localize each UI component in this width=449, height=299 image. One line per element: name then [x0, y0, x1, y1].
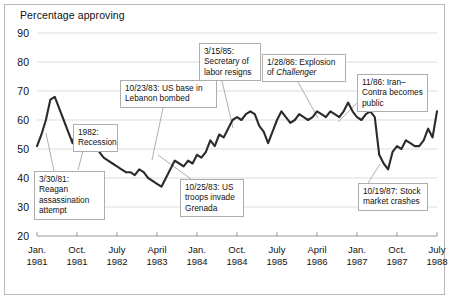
- annotation-stock-market-crash: 10/19/87: Stockmarket crashes: [358, 183, 428, 211]
- annotation-line: market crashes: [363, 196, 423, 206]
- x-tick-label-month: July: [269, 244, 286, 255]
- annotation-recession-1982: 1982:Recession: [73, 124, 118, 152]
- y-tick-label: 30: [17, 201, 29, 213]
- x-tick-label-month: Jan.: [28, 244, 46, 255]
- x-tick-label-month: July: [429, 244, 446, 255]
- annotation-line: troops invade: [185, 192, 239, 202]
- annotation-line: 10/19/87: Stock: [363, 186, 423, 196]
- annotation-line: Recession: [78, 137, 113, 147]
- annotation-line: of Challenger: [267, 67, 341, 77]
- x-tick-labels-group: Jan.1981Oct.1981July1982April1983Jan.198…: [26, 244, 447, 267]
- annotation-challenger-explosion: 1/28/86: Explosionof Challenger: [262, 54, 346, 82]
- annotation-line: labor resigns: [204, 67, 256, 77]
- annotation-line: Secretary of: [204, 56, 256, 66]
- annotation-line: Lebanon bombed: [125, 93, 212, 103]
- y-tick-label: 50: [17, 143, 29, 155]
- annotation-line: 10/23/83: US base in: [125, 83, 212, 93]
- chart-figure: Percentage approving 2030405060708090 Ja…: [0, 0, 449, 299]
- annotation-lebanon-bombing: 10/23/83: US base inLebanon bombed: [120, 80, 217, 108]
- y-tick-labels-group: 2030405060708090: [17, 27, 29, 242]
- annotation-line: attempt: [39, 205, 100, 215]
- x-tick-label-year: 1981: [26, 256, 47, 267]
- y-tick-label: 40: [17, 172, 29, 184]
- leader-line-reagan-assassination: [46, 133, 54, 171]
- x-tick-label-month: Oct.: [68, 244, 85, 255]
- annotation-line: 10/25/83: US: [185, 182, 239, 192]
- x-tick-label-year: 1985: [266, 256, 287, 267]
- y-tick-label: 70: [17, 85, 29, 97]
- x-tick-label-year: 1984: [226, 256, 247, 267]
- x-tick-label-year: 1982: [106, 256, 127, 267]
- annotation-iran-contra: 11/86: Iran–Contra becomespublic: [357, 74, 428, 112]
- x-tick-label-month: Jan.: [348, 244, 366, 255]
- x-tick-label-year: 1983: [146, 256, 167, 267]
- annotation-line: 1982:: [78, 127, 113, 137]
- x-tick-label-year: 1984: [186, 256, 207, 267]
- leader-line-stock-market-crash: [368, 164, 380, 183]
- x-tick-label-month: July: [109, 244, 126, 255]
- annotation-line: public: [362, 98, 423, 108]
- x-tick-label-year: 1981: [66, 256, 87, 267]
- annotation-line: 3/30/81: Reagan: [39, 174, 100, 195]
- annotation-line: assassination: [39, 195, 100, 205]
- annotation-line: 3/15/85:: [204, 46, 256, 56]
- annotation-grenada-invasion: 10/25/83: UStroops invadeGrenada: [180, 179, 244, 217]
- x-tick-label-month: Jan.: [188, 244, 206, 255]
- x-tick-label-month: April: [307, 244, 326, 255]
- x-tick-label-month: Oct.: [388, 244, 405, 255]
- x-axis-group: [37, 232, 437, 236]
- annotation-labor-secretary-resigns: 3/15/85:Secretary oflabor resigns: [199, 43, 261, 81]
- annotation-line: 1/28/86: Explosion: [267, 57, 341, 67]
- annotation-line: Grenada: [185, 203, 239, 213]
- y-tick-label: 20: [17, 230, 29, 242]
- x-tick-label-month: Oct.: [228, 244, 245, 255]
- x-tick-label-year: 1987: [386, 256, 407, 267]
- y-tick-label: 80: [17, 56, 29, 68]
- annotation-line: Contra becomes: [362, 87, 423, 97]
- annotation-reagan-assassination: 3/30/81: Reaganassassinationattempt: [34, 171, 105, 220]
- leader-line-recession-1982: [78, 151, 83, 170]
- annotation-line: 11/86: Iran–: [362, 77, 423, 87]
- x-tick-label-year: 1988: [426, 256, 447, 267]
- x-tick-label-month: April: [147, 244, 166, 255]
- leader-line-lebanon-bombing: [152, 108, 163, 160]
- x-tick-label-year: 1986: [306, 256, 327, 267]
- leader-line-grenada-invasion: [158, 155, 191, 179]
- x-tick-label-year: 1987: [346, 256, 367, 267]
- y-tick-label: 90: [17, 27, 29, 39]
- y-tick-label: 60: [17, 114, 29, 126]
